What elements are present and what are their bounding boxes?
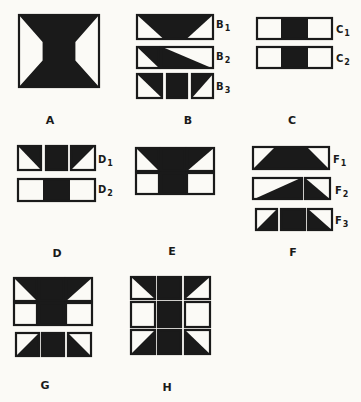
patch-h-solid bbox=[157, 276, 182, 300]
patch-g-tri-br bbox=[15, 332, 40, 357]
patch-f3-tri-bl bbox=[307, 208, 333, 231]
part-label-c2: C2 bbox=[336, 54, 350, 64]
patch-d1-tri-tr bbox=[17, 145, 42, 171]
figure-label-h: H bbox=[162, 382, 171, 393]
patch-e-empty bbox=[186, 172, 215, 195]
figure-label-g: G bbox=[40, 380, 49, 391]
patch-d1-solid bbox=[45, 145, 68, 171]
part-label-d2: D2 bbox=[98, 185, 113, 195]
figure-label-b: B bbox=[184, 115, 192, 126]
patch-e-tri-tl bbox=[186, 147, 215, 172]
patch-b3-tri-tl bbox=[191, 73, 214, 99]
patch-e-empty bbox=[135, 172, 160, 195]
patch-h-tri-bl bbox=[184, 329, 211, 355]
patch-d1-tri-tl bbox=[70, 145, 96, 171]
figure-label-c: C bbox=[288, 115, 296, 126]
patch-g-empty bbox=[13, 302, 38, 326]
patch-c2-center-band bbox=[256, 46, 333, 69]
part-label-b2: B2 bbox=[216, 52, 230, 62]
patch-g-solid bbox=[41, 332, 65, 357]
patch-e-solid bbox=[160, 172, 186, 195]
patch-g-solid bbox=[38, 302, 65, 326]
patch-h-tri-tl bbox=[184, 276, 211, 300]
part-label-f2: F2 bbox=[335, 186, 348, 196]
part-label-c1: C1 bbox=[336, 25, 350, 35]
patch-e-tri-tr bbox=[135, 147, 160, 172]
part-label-f1: F1 bbox=[333, 155, 346, 165]
patch-b2-tri-bl bbox=[160, 46, 214, 69]
figure-label-e: E bbox=[168, 246, 176, 257]
patch-a-hourglass bbox=[18, 14, 100, 88]
patch-f1-trap-up bbox=[252, 146, 330, 170]
patch-e-solid bbox=[160, 147, 186, 172]
patch-h-solid bbox=[157, 329, 182, 355]
patch-d2-center-band bbox=[17, 178, 96, 202]
figure-label-f: F bbox=[289, 247, 297, 258]
patch-g-tri-bl bbox=[67, 332, 92, 357]
part-label-b1: B1 bbox=[216, 20, 230, 30]
patch-f3-solid bbox=[280, 208, 306, 231]
patch-g-solid bbox=[38, 277, 65, 302]
patch-b2-tri-tr bbox=[136, 46, 160, 69]
patch-h-empty bbox=[184, 301, 211, 328]
patch-g-tri-tr bbox=[13, 277, 38, 302]
part-label-d1: D1 bbox=[98, 155, 113, 165]
part-label-b3: B3 bbox=[216, 82, 230, 92]
patch-g-tri-tl bbox=[65, 277, 93, 302]
patch-f3-tri-br bbox=[255, 208, 278, 231]
patch-c1-center-band bbox=[256, 17, 333, 40]
quilt-block-diagram bbox=[0, 0, 361, 402]
patch-h-empty bbox=[130, 301, 156, 328]
patch-h-solid bbox=[157, 301, 182, 328]
figure-label-d: D bbox=[52, 248, 61, 259]
patch-h-tri-br bbox=[130, 329, 156, 355]
figure-label-a: A bbox=[46, 115, 55, 126]
part-label-f3: F3 bbox=[335, 216, 348, 226]
patch-b3-tri-tr bbox=[136, 73, 163, 99]
patch-g-empty bbox=[65, 302, 93, 326]
patch-b1-trap-down bbox=[136, 14, 214, 40]
patch-h-tri-tr bbox=[130, 276, 156, 300]
patch-f2-tri-br bbox=[252, 177, 303, 200]
patch-f2-tri-bl bbox=[304, 177, 331, 200]
patch-b3-solid bbox=[166, 73, 188, 99]
